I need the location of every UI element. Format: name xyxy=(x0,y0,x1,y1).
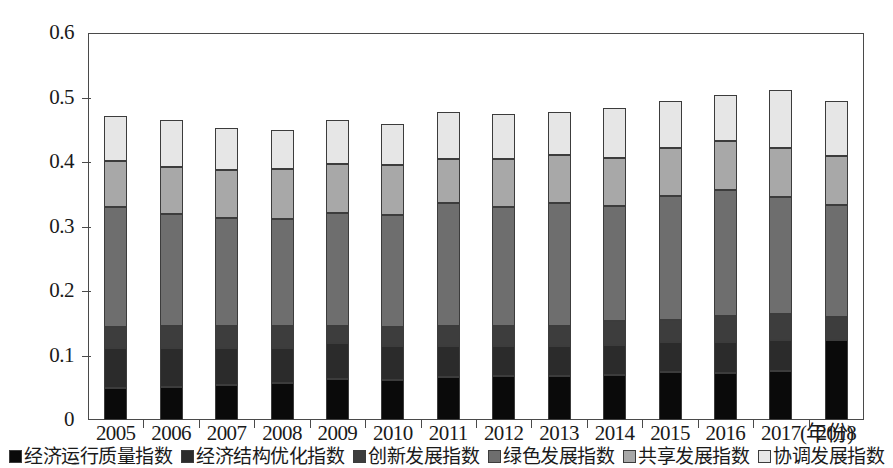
bar-segment xyxy=(603,158,626,206)
bars-layer xyxy=(88,33,864,420)
bar-2015 xyxy=(659,33,682,420)
x-tick-mark xyxy=(531,420,532,428)
chart-legend: 经济运行质量指数经济结构优化指数创新发展指数绿色发展指数共享发展指数协调发展指数 xyxy=(0,444,893,468)
bar-segment xyxy=(160,214,183,327)
bar-segment xyxy=(381,165,404,215)
x-tick-mark xyxy=(698,420,699,428)
x-tick-mark xyxy=(809,420,810,428)
bar-segment xyxy=(714,141,737,190)
bar-2005 xyxy=(104,33,127,420)
bar-segment xyxy=(548,203,571,326)
bar-segment xyxy=(104,388,127,420)
bar-segment xyxy=(271,130,294,169)
bar-segment xyxy=(769,197,792,314)
bar-segment xyxy=(437,377,460,420)
x-tick-mark xyxy=(365,420,366,428)
bar-segment xyxy=(326,326,349,343)
bar-segment xyxy=(437,346,460,378)
legend-swatch-icon xyxy=(181,450,194,463)
legend-swatch-icon xyxy=(353,450,366,463)
bar-2008 xyxy=(271,33,294,420)
bar-2014 xyxy=(603,33,626,420)
bar-segment xyxy=(714,373,737,420)
y-tick-label: 0.2 xyxy=(49,280,74,301)
legend-swatch-icon xyxy=(488,450,501,463)
legend-item[interactable]: 经济运行质量指数 xyxy=(9,446,172,467)
x-tick-label: 2010 xyxy=(365,421,421,445)
legend-label: 创新发展指数 xyxy=(368,446,479,467)
x-tick-label: 2013 xyxy=(531,421,587,445)
y-tick-mark xyxy=(82,227,91,228)
bar-2009 xyxy=(326,33,349,420)
bar-segment xyxy=(659,148,682,196)
legend-label: 绿色发展指数 xyxy=(503,446,614,467)
bar-segment xyxy=(769,148,792,196)
bar-segment xyxy=(492,159,515,207)
bar-segment xyxy=(160,120,183,167)
bar-segment xyxy=(548,326,571,346)
bar-segment xyxy=(548,155,571,203)
bar-segment xyxy=(437,203,460,326)
bar-2012 xyxy=(492,33,515,420)
bar-2017 xyxy=(769,33,792,420)
bar-segment xyxy=(714,316,737,342)
bar-segment xyxy=(825,101,848,156)
bar-segment xyxy=(492,326,515,345)
legend-item[interactable]: 经济结构优化指数 xyxy=(181,446,344,467)
bar-2006 xyxy=(160,33,183,420)
bar-2007 xyxy=(215,33,238,420)
bar-segment xyxy=(271,348,294,383)
bar-segment xyxy=(381,124,404,165)
bar-segment xyxy=(714,342,737,373)
bar-segment xyxy=(215,348,238,385)
legend-item[interactable]: 共享发展指数 xyxy=(623,446,749,467)
bar-segment xyxy=(492,114,515,160)
bar-segment xyxy=(659,372,682,420)
x-tick-label: 2006 xyxy=(143,421,199,445)
bar-segment xyxy=(160,167,183,213)
bar-segment xyxy=(769,90,792,149)
bar-segment xyxy=(160,348,183,387)
x-tick-mark xyxy=(642,420,643,428)
bar-segment xyxy=(326,164,349,213)
x-tick-label: 2012 xyxy=(476,421,532,445)
bar-segment xyxy=(603,375,626,420)
bar-segment xyxy=(381,215,404,327)
bar-2011 xyxy=(437,33,460,420)
bar-segment xyxy=(437,326,460,346)
x-tick-mark xyxy=(476,420,477,428)
bar-segment xyxy=(769,340,792,371)
bar-segment xyxy=(492,376,515,420)
legend-item[interactable]: 绿色发展指数 xyxy=(488,446,614,467)
bar-segment xyxy=(714,95,737,141)
y-tick-label: 0.1 xyxy=(49,345,74,366)
x-tick-mark xyxy=(421,420,422,428)
bar-segment xyxy=(659,342,682,372)
x-tick-mark xyxy=(310,420,311,428)
bar-segment xyxy=(659,320,682,342)
bar-segment xyxy=(825,205,848,317)
bar-segment xyxy=(215,128,238,170)
legend-label: 协调发展指数 xyxy=(773,446,884,467)
bar-segment xyxy=(104,327,127,348)
x-tick-label: 2009 xyxy=(309,421,365,445)
bar-segment xyxy=(381,327,404,346)
bar-segment xyxy=(437,112,460,159)
bar-segment xyxy=(548,112,571,155)
bar-segment xyxy=(215,170,238,218)
x-tick-label: 2007 xyxy=(199,421,255,445)
legend-item[interactable]: 创新发展指数 xyxy=(353,446,479,467)
y-tick-label: 0.6 xyxy=(49,22,74,43)
y-tick-mark xyxy=(82,98,91,99)
bar-segment xyxy=(326,120,349,164)
legend-item[interactable]: 协调发展指数 xyxy=(758,446,884,467)
bar-segment xyxy=(104,116,127,161)
bar-2010 xyxy=(381,33,404,420)
x-tick-label: 2011 xyxy=(420,421,476,445)
bar-segment xyxy=(548,346,571,376)
bar-segment xyxy=(659,101,682,147)
bar-segment xyxy=(769,314,792,340)
bar-segment xyxy=(769,371,792,420)
bar-segment xyxy=(603,321,626,345)
bar-segment xyxy=(271,383,294,420)
